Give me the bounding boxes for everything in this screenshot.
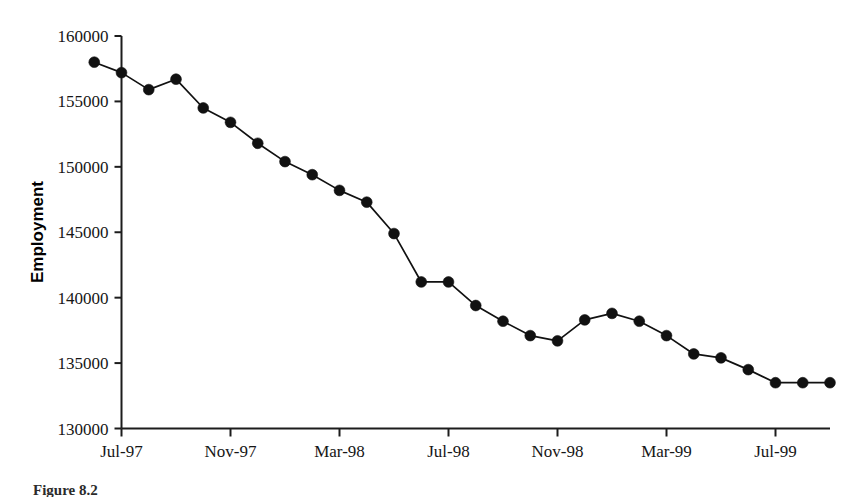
- data-point: [361, 197, 372, 208]
- employment-line-chart: 1300001350001400001450001500001550001600…: [0, 0, 851, 497]
- data-point: [716, 352, 727, 363]
- data-point: [579, 315, 590, 326]
- y-tick-label: 135000: [58, 354, 109, 373]
- y-tick-label: 140000: [58, 289, 109, 308]
- data-point: [552, 335, 563, 346]
- x-tick-label: Jul-98: [427, 442, 470, 461]
- data-point: [416, 277, 427, 288]
- data-point: [661, 330, 672, 341]
- data-point: [498, 316, 509, 327]
- data-point: [171, 74, 182, 85]
- chart-background: [0, 0, 851, 497]
- data-point: [443, 277, 454, 288]
- data-point: [770, 377, 781, 388]
- y-tick-label: 150000: [58, 158, 109, 177]
- data-point: [143, 84, 154, 95]
- y-tick-label: 130000: [58, 420, 109, 439]
- x-tick-label: Mar-98: [314, 442, 365, 461]
- data-point: [389, 228, 400, 239]
- x-tick-label: Nov-97: [205, 442, 257, 461]
- data-point: [280, 156, 291, 167]
- data-point: [825, 377, 836, 388]
- data-point: [198, 103, 209, 114]
- data-point: [607, 308, 618, 319]
- data-point: [797, 377, 808, 388]
- data-point: [116, 67, 127, 78]
- x-tick-label: Mar-99: [641, 442, 692, 461]
- y-axis-title: Employment: [28, 181, 47, 283]
- data-point: [688, 349, 699, 360]
- data-point: [89, 57, 100, 68]
- data-point: [334, 185, 345, 196]
- figure-caption: Figure 8.2: [33, 482, 98, 497]
- x-tick-label: Jul-99: [754, 442, 797, 461]
- x-tick-label: Jul-97: [100, 442, 143, 461]
- y-tick-label: 155000: [58, 92, 109, 111]
- data-point: [525, 330, 536, 341]
- y-tick-label: 145000: [58, 223, 109, 242]
- data-point: [307, 169, 318, 180]
- figure-container: 1300001350001400001450001500001550001600…: [0, 0, 851, 497]
- data-point: [225, 117, 236, 128]
- x-tick-label: Nov-98: [532, 442, 584, 461]
- data-point: [252, 138, 263, 149]
- figure-caption-group: Figure 8.2: [33, 482, 98, 497]
- data-point: [634, 316, 645, 327]
- data-point: [743, 364, 754, 375]
- data-point: [470, 300, 481, 311]
- y-axis-title-group: Employment: [28, 181, 47, 283]
- y-tick-label: 160000: [58, 27, 109, 46]
